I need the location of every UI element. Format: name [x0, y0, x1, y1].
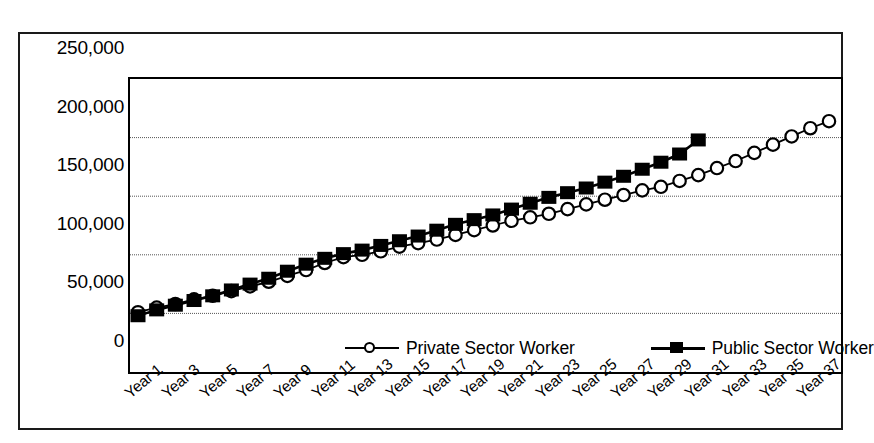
data-marker-square: [373, 239, 388, 252]
data-marker-square: [411, 230, 426, 243]
data-marker-circle: [673, 175, 685, 187]
data-marker-square: [429, 224, 444, 237]
data-marker-square: [299, 258, 314, 271]
filled-square-marker-icon: [670, 342, 683, 353]
chart-legend: Private Sector Worker Public Sector Work…: [345, 331, 765, 365]
data-marker-square: [168, 299, 183, 312]
data-marker-circle: [711, 162, 723, 174]
y-axis-tick-label: 150,000: [28, 155, 124, 174]
series-line-public: [138, 140, 698, 316]
legend-label-private: Private Sector Worker: [406, 338, 575, 359]
legend-item-private: Private Sector Worker: [345, 338, 575, 359]
data-marker-circle: [543, 208, 555, 220]
data-marker-square: [261, 272, 276, 285]
data-marker-square: [560, 186, 575, 199]
data-marker-circle: [655, 181, 667, 193]
data-marker-circle: [599, 194, 611, 206]
data-marker-square: [448, 218, 463, 231]
data-marker-square: [635, 163, 650, 176]
data-marker-square: [541, 191, 556, 204]
data-marker-circle: [617, 189, 629, 201]
data-marker-square: [355, 244, 370, 257]
y-axis-tick-label: 250,000: [28, 38, 124, 57]
chart-outer-frame: 250,000200,000150,000100,00050,0000 Year…: [18, 32, 843, 430]
data-marker-circle: [692, 169, 704, 181]
x-axis-labels: Year 1Year 3Year 5Year 7Year 9Year 11Yea…: [128, 375, 843, 443]
data-marker-square: [691, 133, 706, 146]
data-marker-square: [485, 208, 500, 221]
data-marker-square: [392, 234, 407, 247]
data-marker-square: [280, 265, 295, 278]
legend-label-public: Public Sector Worker: [712, 338, 874, 359]
data-marker-square: [504, 203, 519, 216]
data-marker-circle: [636, 184, 648, 196]
data-marker-circle: [561, 203, 573, 215]
data-marker-circle: [748, 147, 760, 159]
data-marker-square: [616, 170, 631, 183]
y-axis-tick-label: 0: [28, 331, 124, 350]
data-marker-square: [336, 247, 351, 260]
data-marker-square: [579, 182, 594, 195]
data-marker-square: [224, 283, 239, 296]
y-axis-tick-label: 200,000: [28, 97, 124, 116]
data-marker-circle: [767, 138, 779, 150]
legend-item-public: Public Sector Worker: [651, 338, 874, 359]
legend-key-open-circle-icon: [345, 339, 399, 357]
data-marker-circle: [580, 198, 592, 210]
data-marker-square: [131, 309, 146, 322]
data-marker-square: [187, 294, 202, 307]
plot-svg: [130, 79, 841, 372]
y-axis-labels: 250,000200,000150,000100,00050,0000: [20, 34, 124, 432]
data-marker-square: [243, 278, 258, 291]
y-axis-tick-label: 100,000: [28, 214, 124, 233]
data-marker-circle: [823, 115, 835, 127]
data-marker-circle: [804, 122, 816, 134]
data-marker-square: [523, 197, 538, 210]
legend-key-filled-square-icon: [651, 339, 705, 357]
data-marker-circle: [524, 211, 536, 223]
y-axis-tick-label: 50,000: [28, 272, 124, 291]
open-circle-marker-icon: [364, 342, 375, 353]
data-marker-circle: [729, 155, 741, 167]
data-marker-square: [317, 252, 332, 265]
data-marker-square: [149, 303, 164, 316]
data-marker-square: [597, 176, 612, 189]
data-marker-square: [205, 289, 220, 302]
data-marker-square: [672, 148, 687, 161]
plot-area: [128, 77, 843, 374]
data-marker-circle: [785, 130, 797, 142]
data-marker-square: [467, 213, 482, 226]
data-marker-square: [653, 156, 668, 169]
data-marker-circle: [505, 215, 517, 227]
